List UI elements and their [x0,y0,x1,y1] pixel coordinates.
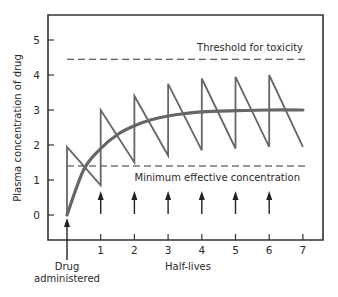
y-tick-label: 2 [33,139,40,151]
x-tick-label: 6 [266,244,273,256]
arrow-up-icon [233,191,239,200]
pharmacokinetics-chart: 012345 1234567 Threshold for toxicity Mi… [0,0,338,297]
drug-administered-label-line1: Drug [55,261,80,272]
x-tick-label: 1 [97,244,104,256]
x-tick-label: 2 [131,244,138,256]
arrow-up-icon [165,191,171,200]
data-series [67,75,303,215]
drug-administered-label-line2: administered [34,273,100,284]
y-axis-ticks: 012345 [33,34,54,221]
x-axis-label: Half-lives [165,261,211,272]
x-tick-label: 4 [198,244,205,256]
arrow-up-icon [98,191,104,200]
x-tick-label: 5 [232,244,239,256]
y-tick-label: 3 [33,104,40,116]
y-axis-label: Plasma concentration of drug [12,54,23,202]
y-tick-label: 4 [33,69,40,81]
x-axis-ticks: 1234567 [97,234,306,256]
x-tick-label: 3 [165,244,172,256]
arrow-up-icon [266,191,272,200]
x-tick-label: 7 [300,244,307,256]
arrow-up-icon [131,191,137,200]
min-effective-label: Minimum effective concentration [135,172,300,183]
y-tick-label: 5 [33,34,40,46]
arrow-up-icon [64,218,70,227]
arrow-up-icon [199,191,205,200]
y-tick-label: 0 [33,209,40,221]
y-tick-label: 1 [33,174,40,186]
threshold-label: Threshold for toxicity [196,42,303,53]
